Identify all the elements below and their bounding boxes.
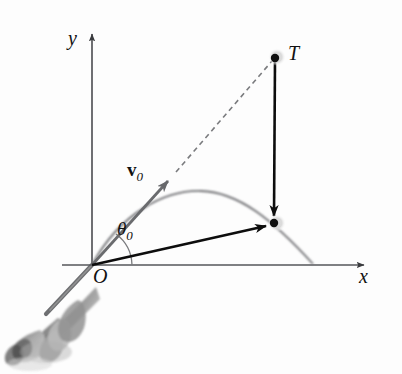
drop-vector [274,60,275,216]
origin-label: O [93,266,107,286]
theta-subscript: 0 [126,228,133,243]
x-axis-label: x [359,266,368,286]
velocity-symbol: v [127,159,137,180]
target-point-label: T [288,43,299,63]
figure-canvas [0,0,402,374]
launcher-photo [5,287,100,371]
velocity-subscript: 0 [137,169,144,184]
launch-angle-label: θ0 [117,219,133,242]
dashed-projection-line [176,61,272,172]
projectile-motion-figure: y x O T θ0 v0 [0,0,402,374]
projectile-point-marker [270,219,278,227]
y-axis-label: y [68,28,77,48]
velocity-vector-label: v0 [127,160,143,183]
theta-symbol: θ [117,218,126,239]
target-point-marker [271,54,279,62]
